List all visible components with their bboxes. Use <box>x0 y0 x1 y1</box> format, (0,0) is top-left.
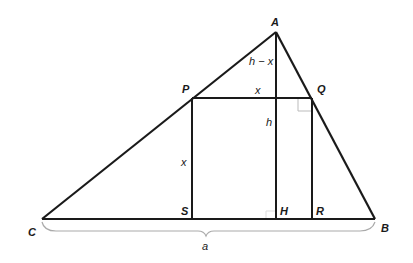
side-ab <box>276 32 375 219</box>
label-x-top: x <box>254 84 261 96</box>
geometry-diagram: A B C P Q R S H h − x x x h a <box>0 0 413 263</box>
label-a-vertex: A <box>270 16 279 28</box>
label-b-vertex: B <box>381 222 389 234</box>
label-h-minus-x: h − x <box>249 55 274 67</box>
label-s-vertex: S <box>181 205 189 217</box>
right-angle-marker-h <box>266 211 276 219</box>
label-x-side: x <box>180 156 187 168</box>
label-r-vertex: R <box>316 205 324 217</box>
label-q-vertex: Q <box>317 83 326 95</box>
side-ca <box>42 32 276 219</box>
right-angle-marker-q <box>298 98 312 111</box>
label-h-vertex: H <box>280 205 289 217</box>
brace-a <box>42 222 375 236</box>
label-p-vertex: P <box>182 83 190 95</box>
label-a-base: a <box>202 240 208 252</box>
label-c-vertex: C <box>28 226 37 238</box>
label-h: h <box>266 116 272 128</box>
